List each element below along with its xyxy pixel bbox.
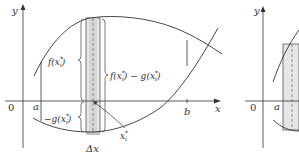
- f-of-xi-label: f(x*i): [47, 55, 66, 68]
- neg-g-of-xi-label: −g(x*i): [44, 112, 72, 125]
- area-between-curves-diagram: y x 0 a b f(x*i) f(x*i) − g(x*i) −g(x*i)…: [0, 0, 299, 159]
- xi-star-label: x*i: [120, 129, 128, 142]
- y-axis-arrow-icon: [21, 4, 26, 10]
- y-axis-label: y: [11, 5, 18, 16]
- right-y-axis-arrow-icon: [261, 6, 266, 12]
- right-origin-label: 0: [250, 102, 256, 113]
- f-minus-g-label: f(x*i) − g(x*i): [109, 69, 161, 82]
- origin-label: 0: [8, 102, 14, 113]
- right-tick-label-a: a: [274, 101, 280, 112]
- x-axis-label: x: [215, 103, 221, 114]
- right-y-axis-label: y: [253, 5, 260, 16]
- brace-neg-g: [78, 102, 84, 132]
- tick-label-b: b: [184, 106, 190, 117]
- brace-f: [78, 19, 84, 101]
- left-panel: y x 0 a b f(x*i) f(x*i) − g(x*i) −g(x*i)…: [5, 4, 222, 154]
- tick-label-a: a: [33, 101, 39, 112]
- delta-x-label: Δx: [85, 143, 99, 154]
- right-panel: y 0 a: [245, 5, 299, 148]
- brace-difference: [102, 19, 108, 132]
- right-approximating-rectangle: [283, 44, 299, 130]
